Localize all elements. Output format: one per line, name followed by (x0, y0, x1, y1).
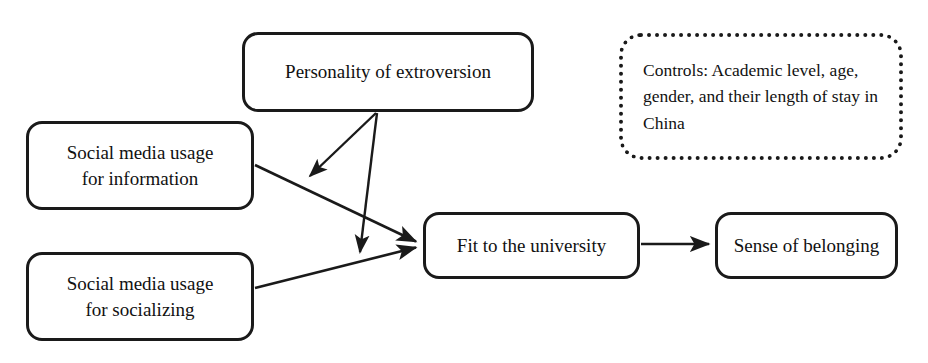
controls-note-label: Controls: Academic level, age, gender, a… (643, 57, 883, 136)
node-fit-to-university-label: Fit to the university (457, 233, 606, 258)
conceptual-model-diagram: Personality of extroversion Social media… (0, 0, 928, 363)
node-sense-of-belonging-label: Sense of belonging (734, 233, 880, 258)
node-personality-label: Personality of extroversion (285, 59, 491, 84)
edge-information-to-fit (255, 165, 416, 242)
node-social-media-information-label: Social media usage for information (67, 140, 214, 190)
edge-personality-moderates-information-path (310, 113, 376, 176)
node-personality-of-extroversion[interactable]: Personality of extroversion (242, 32, 534, 112)
edge-personality-moderates-socializing-path (360, 113, 377, 252)
node-social-media-usage-for-socializing[interactable]: Social media usage for socializing (26, 252, 254, 341)
node-sense-of-belonging[interactable]: Sense of belonging (715, 212, 898, 279)
node-social-media-usage-for-information[interactable]: Social media usage for information (26, 121, 254, 210)
node-fit-to-the-university[interactable]: Fit to the university (423, 212, 640, 279)
node-social-media-socializing-label: Social media usage for socializing (67, 271, 214, 321)
controls-note-box[interactable]: Controls: Academic level, age, gender, a… (619, 33, 903, 160)
edge-socializing-to-fit (255, 248, 416, 289)
